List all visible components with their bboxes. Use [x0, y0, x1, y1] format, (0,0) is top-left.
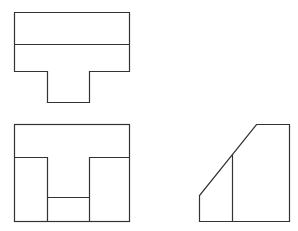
- three-view-drawing: [0, 0, 298, 231]
- top-view: [15, 13, 130, 103]
- front-view: [15, 125, 130, 222]
- side-view: [200, 125, 290, 222]
